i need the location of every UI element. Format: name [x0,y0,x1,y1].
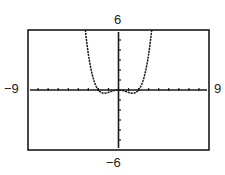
label-ymin: −6 [106,156,121,169]
graph-plot [0,0,225,175]
label-xmin: −9 [4,82,19,95]
label-xmax: 9 [214,82,221,95]
label-ymax: 6 [114,13,121,26]
